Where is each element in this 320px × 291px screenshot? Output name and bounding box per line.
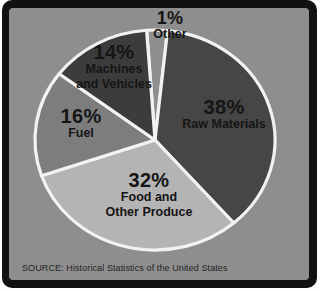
slice-name-line: Fuel — [61, 126, 102, 141]
slice-percent: 16% — [61, 106, 102, 126]
slice-label-other: 1% Other — [153, 9, 186, 42]
slice-name-line: Raw Materials — [182, 117, 265, 132]
slice-name-line: Machines — [76, 62, 152, 77]
slice-percent: 14% — [76, 42, 152, 62]
slice-name-line: and Vehicles — [76, 77, 152, 92]
pie-chart-svg — [0, 0, 320, 291]
slice-percent: 32% — [106, 170, 193, 190]
chart-figure: 1% Other 38% Raw Materials 32% Food and … — [0, 0, 320, 291]
slice-label-raw-materials: 38% Raw Materials — [182, 97, 265, 132]
slice-label-food-and-other-produce: 32% Food and Other Produce — [106, 170, 193, 220]
slice-name-line: Other Produce — [106, 205, 193, 220]
slice-percent: 1% — [153, 9, 186, 27]
slice-percent: 38% — [182, 97, 265, 117]
slice-name-line: Other — [153, 27, 186, 42]
slice-name-line: Food and — [106, 190, 193, 205]
slice-label-machines-and-vehicles: 14% Machines and Vehicles — [76, 42, 152, 92]
slice-label-fuel: 16% Fuel — [61, 106, 102, 141]
source-note: SOURCE: Historical Statistics of the Uni… — [22, 263, 228, 273]
